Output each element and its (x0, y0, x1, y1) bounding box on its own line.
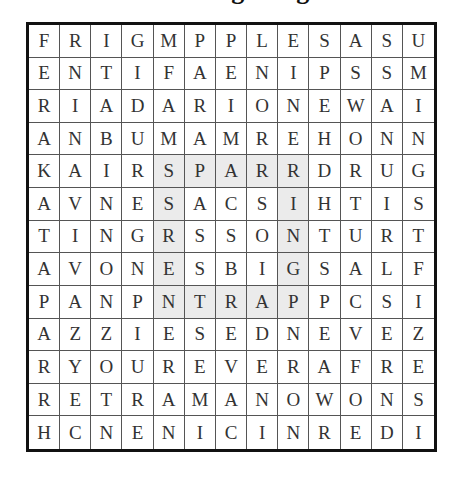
grid-cell[interactable]: A (216, 384, 247, 417)
grid-cell[interactable]: O (247, 221, 278, 254)
grid-cell[interactable]: O (278, 384, 309, 417)
grid-cell[interactable]: E (216, 58, 247, 91)
grid-cell[interactable]: R (309, 416, 340, 449)
grid-cell[interactable]: T (341, 188, 372, 221)
grid-cell[interactable]: A (29, 319, 60, 352)
grid-cell[interactable]: N (91, 286, 122, 319)
grid-cell[interactable]: E (154, 253, 185, 286)
grid-cell[interactable]: R (372, 221, 403, 254)
grid-cell[interactable]: N (247, 58, 278, 91)
grid-cell[interactable]: A (185, 123, 216, 156)
grid-cell[interactable]: Z (403, 319, 434, 352)
grid-cell[interactable]: I (185, 416, 216, 449)
grid-cell[interactable]: E (122, 416, 153, 449)
grid-cell[interactable]: I (91, 155, 122, 188)
grid-cell[interactable]: R (216, 286, 247, 319)
grid-cell[interactable]: O (91, 351, 122, 384)
grid-cell[interactable]: A (29, 123, 60, 156)
grid-cell[interactable]: F (154, 58, 185, 91)
grid-cell[interactable]: D (372, 416, 403, 449)
grid-cell[interactable]: R (29, 90, 60, 123)
grid-cell[interactable]: R (278, 155, 309, 188)
grid-cell[interactable]: R (341, 155, 372, 188)
grid-cell[interactable]: Y (60, 351, 91, 384)
grid-cell[interactable]: T (309, 221, 340, 254)
grid-cell[interactable]: Z (60, 319, 91, 352)
grid-cell[interactable]: R (29, 351, 60, 384)
grid-cell[interactable]: H (309, 188, 340, 221)
grid-cell[interactable]: K (29, 155, 60, 188)
grid-cell[interactable]: A (185, 188, 216, 221)
grid-cell[interactable]: S (216, 221, 247, 254)
grid-cell[interactable]: U (122, 351, 153, 384)
grid-cell[interactable]: M (154, 123, 185, 156)
grid-cell[interactable]: I (122, 319, 153, 352)
grid-cell[interactable]: P (278, 286, 309, 319)
grid-cell[interactable]: R (372, 351, 403, 384)
grid-cell[interactable]: E (309, 90, 340, 123)
grid-cell[interactable]: H (29, 416, 60, 449)
grid-cell[interactable]: F (29, 25, 60, 58)
grid-cell[interactable]: C (216, 416, 247, 449)
grid-cell[interactable]: I (403, 416, 434, 449)
grid-cell[interactable]: N (91, 221, 122, 254)
grid-cell[interactable]: A (247, 286, 278, 319)
grid-cell[interactable]: N (278, 221, 309, 254)
grid-cell[interactable]: T (185, 286, 216, 319)
grid-cell[interactable]: N (91, 188, 122, 221)
grid-cell[interactable]: S (403, 384, 434, 417)
grid-cell[interactable]: A (60, 286, 91, 319)
grid-cell[interactable]: M (185, 384, 216, 417)
grid-cell[interactable]: R (154, 221, 185, 254)
grid-cell[interactable]: U (372, 155, 403, 188)
grid-cell[interactable]: R (278, 351, 309, 384)
grid-cell[interactable]: R (247, 123, 278, 156)
grid-cell[interactable]: G (403, 155, 434, 188)
grid-cell[interactable]: P (216, 25, 247, 58)
grid-cell[interactable]: N (372, 123, 403, 156)
grid-cell[interactable]: O (341, 123, 372, 156)
grid-cell[interactable]: M (154, 25, 185, 58)
grid-cell[interactable]: P (29, 286, 60, 319)
grid-cell[interactable]: W (309, 384, 340, 417)
grid-cell[interactable]: G (278, 253, 309, 286)
grid-cell[interactable]: C (60, 416, 91, 449)
grid-cell[interactable]: A (341, 25, 372, 58)
grid-cell[interactable]: I (372, 188, 403, 221)
grid-cell[interactable]: R (185, 90, 216, 123)
grid-cell[interactable]: F (403, 253, 434, 286)
grid-cell[interactable]: N (122, 253, 153, 286)
grid-cell[interactable]: E (309, 319, 340, 352)
grid-cell[interactable]: N (278, 416, 309, 449)
grid-cell[interactable]: V (60, 253, 91, 286)
grid-cell[interactable]: I (216, 90, 247, 123)
grid-cell[interactable]: A (372, 90, 403, 123)
grid-cell[interactable]: E (29, 58, 60, 91)
grid-cell[interactable]: T (91, 58, 122, 91)
grid-cell[interactable]: O (341, 384, 372, 417)
grid-cell[interactable]: S (403, 188, 434, 221)
grid-cell[interactable]: N (154, 416, 185, 449)
grid-cell[interactable]: S (372, 25, 403, 58)
grid-cell[interactable]: I (60, 221, 91, 254)
grid-cell[interactable]: S (185, 319, 216, 352)
grid-cell[interactable]: A (154, 384, 185, 417)
grid-cell[interactable]: I (91, 25, 122, 58)
grid-cell[interactable]: R (60, 25, 91, 58)
grid-cell[interactable]: F (341, 351, 372, 384)
grid-cell[interactable]: B (91, 123, 122, 156)
grid-cell[interactable]: L (372, 253, 403, 286)
grid-cell[interactable]: N (278, 90, 309, 123)
grid-cell[interactable]: E (372, 319, 403, 352)
grid-cell[interactable]: D (309, 155, 340, 188)
grid-cell[interactable]: M (403, 58, 434, 91)
grid-cell[interactable]: N (60, 123, 91, 156)
grid-cell[interactable]: A (216, 155, 247, 188)
grid-cell[interactable]: V (60, 188, 91, 221)
grid-cell[interactable]: U (122, 123, 153, 156)
grid-cell[interactable]: I (278, 188, 309, 221)
grid-cell[interactable]: P (122, 286, 153, 319)
grid-cell[interactable]: U (341, 221, 372, 254)
grid-cell[interactable]: E (278, 123, 309, 156)
grid-cell[interactable]: E (60, 384, 91, 417)
